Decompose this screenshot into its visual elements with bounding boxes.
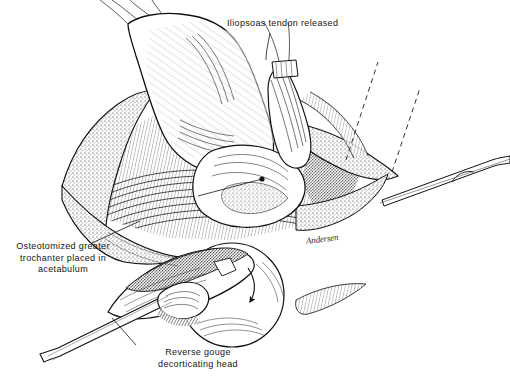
gouge-caption-line-1: Reverse gouge <box>165 347 231 357</box>
label-osteotomized-greater-trochanter: Osteotomized greater trochanter placed i… <box>4 241 122 276</box>
label-iliopsoas-tendon-released: Iliopsoas tendon released <box>227 18 338 30</box>
surgical-illustration-figure: Iliopsoas tendon released Osteotomized g… <box>0 0 510 380</box>
gouge-caption-line-2: decorticating head <box>158 359 238 369</box>
label-reverse-gouge-decorticating-head: Reverse gouge decorticating head <box>128 347 268 370</box>
line-art-canvas <box>0 0 510 380</box>
